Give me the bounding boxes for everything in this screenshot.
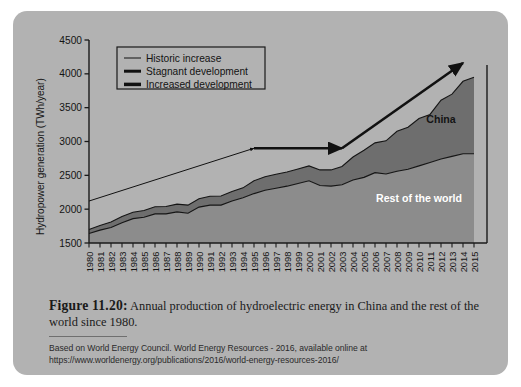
x-axis-tick-label: 2015 [469, 252, 480, 273]
x-axis-tick-label: 2004 [348, 252, 359, 273]
x-axis-tick-label: 2007 [381, 252, 392, 273]
figure-caption: Figure 11.20: Annual production of hydro… [49, 298, 489, 330]
y-axis-tick-label: 1500 [59, 238, 82, 249]
x-axis-tick-label: 2006 [370, 252, 381, 273]
x-axis-tick-label: 1984 [128, 252, 139, 273]
x-axis-tick-label: 1989 [183, 252, 194, 273]
x-axis-tick-label: 2014 [458, 252, 469, 273]
y-axis-tick-label: 3500 [59, 102, 82, 113]
y-axis-tick-label: 2500 [59, 170, 82, 181]
x-axis-tick-label: 1981 [95, 252, 106, 273]
series-label-china: China [426, 113, 456, 125]
x-axis-tick-label: 2009 [403, 252, 414, 273]
x-axis-tick-label: 1994 [238, 252, 249, 273]
x-axis-tick-label: 2000 [304, 252, 315, 273]
x-axis-tick-label: 2002 [326, 252, 337, 273]
x-axis-tick-label: 1997 [271, 252, 282, 273]
legend-label-1: Stagnant development [146, 66, 248, 77]
y-axis-tick-label: 2000 [59, 204, 82, 215]
y-axis-title: Hydropower generation (TWh/year) [35, 78, 46, 235]
x-axis-tick-label: 2008 [392, 252, 403, 273]
figure-card: 1500200025003000350040004500198019811982… [13, 11, 508, 375]
x-axis-tick-label: 1980 [84, 252, 95, 273]
x-axis-tick-label: 2001 [315, 252, 326, 273]
hydropower-stacked-area-chart: 1500200025003000350040004500198019811982… [13, 11, 508, 301]
legend-label-2: Increased development [146, 79, 252, 90]
series-label-rest-of-the-world: Rest of the world [376, 192, 462, 204]
x-axis-tick-label: 2003 [337, 252, 348, 273]
x-axis-tick-label: 2005 [359, 252, 370, 273]
x-axis-tick-label: 2011 [425, 252, 436, 272]
y-axis-tick-label: 3000 [59, 136, 82, 147]
x-axis-tick-label: 1985 [139, 252, 150, 273]
y-axis-tick-label: 4500 [59, 35, 82, 46]
x-axis-tick-label: 1988 [172, 252, 183, 273]
x-axis-tick-label: 1996 [260, 252, 271, 273]
caption-divider [49, 336, 127, 337]
x-axis-tick-label: 2012 [436, 252, 447, 273]
x-axis-tick-label: 1982 [106, 252, 117, 273]
x-axis-tick-label: 2013 [447, 252, 458, 273]
x-axis-tick-label: 1998 [282, 252, 293, 273]
x-axis-tick-label: 1987 [161, 252, 172, 273]
x-axis-tick-label: 1999 [293, 252, 304, 273]
y-axis-tick-label: 4000 [59, 68, 82, 79]
figure-caption-label: Figure 11.20: [49, 298, 128, 313]
x-axis-tick-label: 1992 [216, 252, 227, 273]
legend-label-0: Historic increase [146, 53, 222, 64]
x-axis-tick-label: 2010 [414, 252, 425, 273]
x-axis-tick-label: 1993 [227, 252, 238, 273]
x-axis-tick-label: 1995 [249, 252, 260, 273]
x-axis-tick-label: 1983 [117, 252, 128, 273]
x-axis-tick-label: 1986 [150, 252, 161, 273]
figure-source-note: Based on World Energy Council. World Ene… [49, 342, 494, 367]
x-axis-tick-label: 1990 [194, 252, 205, 273]
x-axis-tick-label: 1991 [205, 252, 216, 273]
